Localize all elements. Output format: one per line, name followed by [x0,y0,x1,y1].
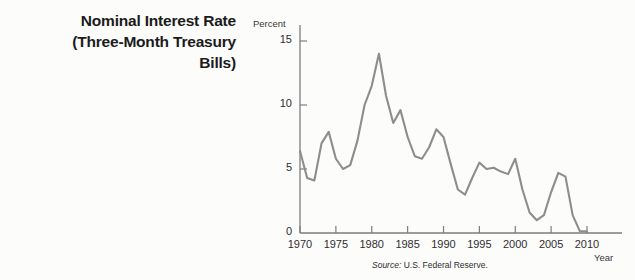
line-chart: Percent Year 051015 19701975198019851990… [0,0,635,280]
y-tick-label: 10 [270,97,292,109]
x-tick-label: 1990 [424,238,464,250]
source-label: Source: [372,260,401,270]
y-tick-label: 15 [270,33,292,45]
x-tick-label: 1975 [316,238,356,250]
y-tick-label: 5 [270,161,292,173]
source-text: U.S. Federal Reserve. [401,260,487,270]
figure-page: Nominal Interest Rate (Three-Month Treas… [0,0,635,280]
x-tick-label: 2010 [567,238,607,250]
x-tick-label: 2005 [531,238,571,250]
y-tick-label: 0 [270,225,292,237]
x-tick-label: 1980 [352,238,392,250]
axes [300,25,622,233]
x-tick-label: 1970 [280,238,320,250]
x-tick-label: 1985 [388,238,428,250]
x-axis-label: Year [594,252,613,263]
data-series-line [300,54,587,231]
y-axis-label: Percent [253,18,286,29]
x-tick-label: 1995 [459,238,499,250]
source-note: Source: U.S. Federal Reserve. [372,260,488,270]
x-tick-label: 2000 [495,238,535,250]
